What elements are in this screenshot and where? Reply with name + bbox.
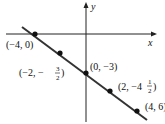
label-neg2-frac-den: 2 (56, 74, 60, 82)
label-4-6: (4, 6) (145, 101, 165, 113)
point-neg2-neg3half (57, 50, 62, 55)
label-neg4-0: (−4, 0) (6, 39, 33, 51)
y-axis-label: y (90, 1, 96, 12)
y-axis-arrow-icon (84, 2, 89, 8)
x-axis-label: x (147, 37, 153, 48)
point-4-6 (134, 108, 139, 113)
label-2-frac-num: 1 (148, 78, 152, 86)
label-neg2-suffix: ) (61, 67, 64, 79)
label-0-neg3: (0, −3) (90, 61, 117, 73)
point-neg4-0 (32, 31, 37, 36)
label-2-suffix: ) (153, 81, 156, 93)
x-axis-arrow-icon (151, 32, 157, 37)
point-2-neg4half (107, 88, 112, 93)
label-2-prefix: (2, −4 (118, 81, 142, 93)
label-neg2-frac-num: 3 (56, 65, 60, 73)
point-0-neg3 (83, 70, 88, 75)
label-neg2-prefix: (−2, − (19, 67, 44, 79)
coordinate-plane: x y (−4, 0) (−2, − 3 2 ) (0, −3) (2, −4 … (0, 0, 165, 124)
label-2-frac-den: 2 (148, 87, 152, 95)
